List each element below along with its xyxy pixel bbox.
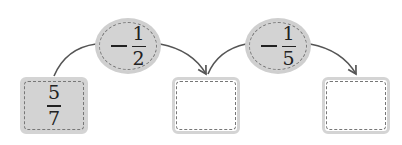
minus-sign	[261, 45, 277, 46]
result-1-box[interactable]	[172, 77, 240, 134]
arc-1-out	[160, 44, 206, 74]
operation-1-numerator: 1	[132, 24, 144, 43]
arc-2-in	[208, 44, 246, 74]
arc-2-out	[310, 44, 356, 74]
operation-1-ellipse: 1 2	[95, 18, 161, 74]
start-denominator: 7	[48, 109, 60, 128]
operation-1-fraction: 1 2	[132, 24, 146, 68]
operation-2-numerator: 1	[282, 24, 294, 43]
operation-2-denominator: 5	[282, 49, 294, 68]
arc-1-in	[54, 44, 96, 76]
operation-2-ellipse: 1 5	[245, 18, 311, 74]
start-numerator: 5	[48, 83, 60, 102]
operation-2-fraction: 1 5	[282, 24, 296, 68]
start-fraction: 5 7	[47, 83, 61, 127]
operation-1-denominator: 2	[132, 49, 144, 68]
minus-sign	[111, 45, 127, 46]
start-value-box: 5 7	[20, 77, 88, 134]
result-2-box[interactable]	[322, 77, 390, 134]
